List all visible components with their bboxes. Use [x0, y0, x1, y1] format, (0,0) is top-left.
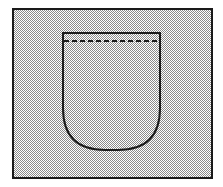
pocket-outline [63, 33, 160, 150]
figure-canvas [0, 0, 223, 187]
pocket-line-drawing [0, 0, 223, 187]
